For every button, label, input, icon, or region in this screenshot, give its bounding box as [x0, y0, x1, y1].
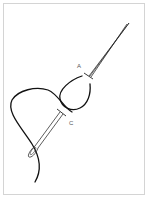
label-a: A: [77, 63, 81, 69]
upper-needle-icon: [84, 23, 129, 79]
stitch-illustration: [0, 0, 149, 201]
label-c: C: [69, 120, 73, 126]
thread-strand: [11, 88, 72, 182]
lower-needle-icon: [28, 109, 66, 157]
